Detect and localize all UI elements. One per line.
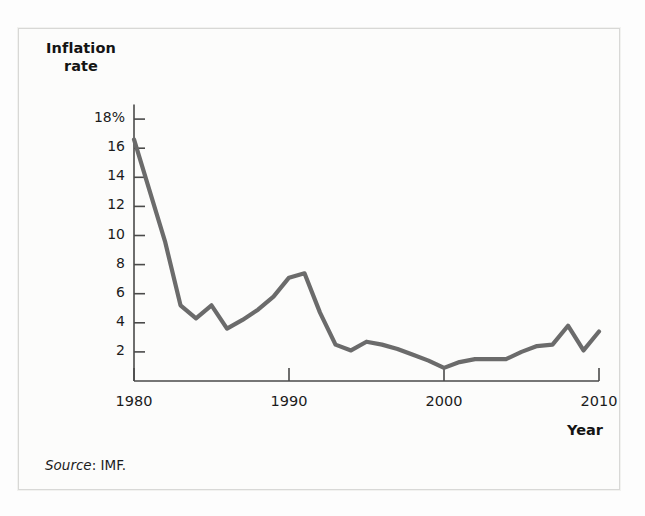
y-axis-tick-label: 2	[116, 342, 125, 358]
source-note: Source: IMF.	[45, 457, 126, 473]
inflation-rate-line	[134, 139, 599, 367]
axis-layer	[134, 105, 599, 381]
x-axis-tick-label: 1990	[249, 393, 329, 409]
source-value: : IMF.	[92, 457, 126, 473]
x-axis-tick-label: 2000	[404, 393, 484, 409]
plot-area: Inflation rate 24681012141618% 198019902…	[19, 29, 621, 491]
y-axis-tick-label: 18%	[94, 109, 125, 125]
y-axis-tick-label: 12	[107, 196, 125, 212]
inflation-line-chart	[19, 29, 621, 491]
y-axis-tick-label: 14	[107, 167, 125, 183]
x-axis-tick-label: 1980	[94, 393, 174, 409]
source-label: Source	[45, 457, 92, 473]
figure-frame: Inflation rate 24681012141618% 198019902…	[18, 28, 620, 490]
y-axis-tick-label: 4	[116, 313, 125, 329]
y-axis-tick-label: 6	[116, 284, 125, 300]
y-axis-tick-label: 10	[107, 226, 125, 242]
x-axis-title: Year	[567, 422, 603, 438]
figure-root: Inflation rate 24681012141618% 198019902…	[0, 0, 645, 516]
y-axis-tick-label: 16	[107, 138, 125, 154]
x-axis-tick-label: 2010	[559, 393, 639, 409]
y-axis-tick-label: 8	[116, 255, 125, 271]
